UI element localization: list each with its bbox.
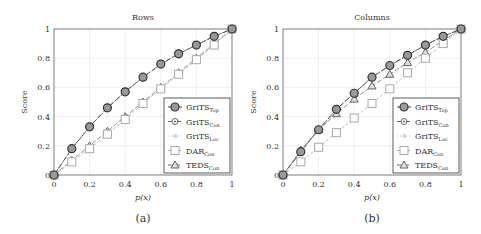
circle-marker [157,60,165,68]
circle-marker [279,171,287,179]
chart-columns: 00.20.40.60.8100.20.40.60.81Columnsp(x)(… [249,13,465,225]
y-tick-label: 0.4 [37,113,50,122]
circle-marker [404,51,412,59]
y-tick-label: 0.6 [266,83,279,92]
chart-title: Rows [132,13,154,22]
y-tick-label: 0 [274,171,279,180]
circle-marker [210,32,218,40]
x-tick-label: 0.8 [190,180,203,189]
square-marker [192,56,200,64]
square-marker [386,85,394,93]
circle-marker [228,25,236,33]
chart-rows: 00.20.40.60.8100.20.40.60.81Rowsp(x)(a)S… [20,13,236,225]
square-marker [139,99,147,107]
caption: (b) [364,212,380,225]
square-marker [171,147,179,155]
y-tick-label: 0.2 [37,142,50,151]
circle-marker [386,62,394,70]
x-tick-label: 0.2 [83,180,96,189]
y-tick-label: 1 [274,25,279,34]
x-tick-label: 0 [51,180,56,189]
x-tick-label: 1 [229,180,234,189]
chart-title: Columns [354,13,390,22]
y-tick-label: 0 [45,171,50,180]
x-axis-label: p(x) [135,193,151,202]
square-marker [421,54,429,62]
dot-marker [403,121,405,123]
square-marker [332,129,340,137]
x-tick-label: 0.6 [154,180,167,189]
circle-marker [139,73,147,81]
square-marker [121,116,129,124]
circle-marker [315,126,323,134]
x-tick-label: 0.4 [119,180,132,189]
circle-marker [350,89,358,97]
circle-marker [192,41,200,49]
star-marker: ✳ [401,132,408,141]
y-tick-label: 0.8 [266,54,279,63]
figure: 00.20.40.60.8100.20.40.60.81Rowsp(x)(a)S… [0,0,481,234]
square-marker [400,147,408,155]
square-marker [368,99,376,107]
circle-marker [68,145,76,153]
circle-marker [297,148,305,156]
legend: GriTSTopGriTSCon✳GriTSLocDARConTEDSCon [164,98,230,173]
circle-marker [86,123,94,131]
x-tick-label: 0.4 [348,180,361,189]
triangle-marker [368,82,376,89]
y-tick-label: 0.2 [266,142,279,151]
triangle-marker [386,70,394,77]
square-marker [210,41,218,49]
circle-marker [368,73,376,81]
square-marker [175,70,183,78]
square-marker [103,130,111,138]
y-tick-label: 0.6 [37,83,50,92]
y-axis-label: Score [249,90,258,114]
x-tick-label: 0.2 [312,180,325,189]
square-marker [157,85,165,93]
y-axis-label: Score [20,90,29,114]
circle-marker [121,88,129,96]
square-marker [68,158,76,166]
caption: (a) [135,212,150,225]
dot-marker [174,121,176,123]
y-tick-label: 0.4 [266,113,279,122]
square-marker [315,143,323,151]
y-tick-label: 0.8 [37,54,50,63]
circle-marker [457,25,465,33]
circle-marker [439,32,447,40]
circle-marker [103,104,111,112]
square-marker [297,158,305,166]
legend: GriTSTopGriTSCon✳GriTSLocDARConTEDSCon [393,98,459,173]
x-tick-label: 1 [458,180,463,189]
y-tick-label: 1 [45,25,50,34]
circle-marker [400,103,408,111]
square-marker [350,114,358,122]
circle-marker [50,171,58,179]
circle-marker [332,105,340,113]
circle-marker [171,103,179,111]
circle-marker [421,41,429,49]
square-marker [404,69,412,77]
circle-marker [175,50,183,58]
x-tick-label: 0.6 [383,180,396,189]
x-tick-label: 0.8 [419,180,432,189]
square-marker [86,145,94,153]
x-axis-label: p(x) [364,193,380,202]
x-tick-label: 0 [280,180,285,189]
star-marker: ✳ [172,132,179,141]
